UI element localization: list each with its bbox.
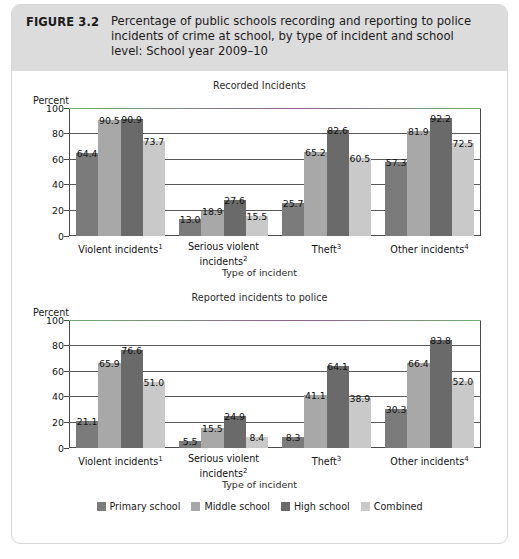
y-tick-mark xyxy=(64,422,69,423)
y-tick-mark xyxy=(64,108,69,109)
x-categories-reported: Violent incidents1Serious violent incide… xyxy=(69,453,481,480)
bar-value-label: 30.3 xyxy=(385,404,408,415)
bar-value-label: 57.3 xyxy=(385,157,408,168)
x-categories-recorded: Violent incidents1Serious violent incide… xyxy=(69,241,481,268)
x-category-label: Other incidents4 xyxy=(378,453,481,480)
bar-value-label: 73.7 xyxy=(143,136,166,147)
bar-fill xyxy=(407,363,429,448)
y-tick-label: 40 xyxy=(52,179,64,190)
bar-value-label: 51.0 xyxy=(143,377,166,388)
legend-swatch xyxy=(97,502,106,511)
bar: 90.5 xyxy=(98,120,120,236)
bar-value-label: 82.6 xyxy=(326,125,349,136)
bar: 27.6 xyxy=(224,200,246,235)
bar: 25.7 xyxy=(282,203,304,236)
legend-swatch xyxy=(281,502,290,511)
bar-fill xyxy=(327,130,349,236)
bar: 64.4 xyxy=(76,153,98,235)
y-tick-label: 20 xyxy=(52,417,64,428)
y-tick-label: 60 xyxy=(52,153,64,164)
bar-value-label: 8.4 xyxy=(248,432,265,443)
x-axis-label-recorded: Type of incident xyxy=(12,267,507,278)
bar-value-label: 21.1 xyxy=(76,416,99,427)
x-category-label: Other incidents4 xyxy=(378,241,481,268)
y-tick-label: 100 xyxy=(46,314,64,325)
bar-value-label: 38.9 xyxy=(349,393,372,404)
bar-value-label: 41.1 xyxy=(304,390,327,401)
bar: 92.2 xyxy=(430,118,452,236)
bar: 76.6 xyxy=(121,350,143,448)
x-category-label: Violent incidents1 xyxy=(69,241,172,268)
bar: 60.5 xyxy=(349,158,371,235)
bar-group: 8.341.164.138.9 xyxy=(275,320,378,448)
bar: 51.0 xyxy=(143,382,165,447)
y-tick-mark xyxy=(64,396,69,397)
bar: 15.5 xyxy=(246,216,268,236)
figure-title: Percentage of public schools recording a… xyxy=(111,14,483,60)
chart-legend: Primary schoolMiddle schoolHigh schoolCo… xyxy=(12,501,507,518)
figure-label: FIGURE 3.2 xyxy=(26,14,99,29)
y-tick-mark xyxy=(64,133,69,134)
bar: 8.3 xyxy=(282,437,304,448)
y-tick-label: 80 xyxy=(52,128,64,139)
bar-value-label: 76.6 xyxy=(120,345,143,356)
legend-item: High school xyxy=(281,501,350,512)
bar-value-label: 13.0 xyxy=(179,214,202,225)
bar-fill xyxy=(98,120,120,236)
bar-value-label: 90.9 xyxy=(120,114,143,125)
bar-fill xyxy=(452,381,474,448)
chart-panel-recorded: Recorded Incidents Percent 64.490.590.97… xyxy=(12,75,507,287)
figure-card: FIGURE 3.2 Percentage of public schools … xyxy=(11,4,508,544)
bar-fill xyxy=(121,350,143,448)
legend-label: Middle school xyxy=(204,501,270,512)
bar-value-label: 60.5 xyxy=(349,153,372,164)
legend-label: High school xyxy=(294,501,350,512)
bar-value-label: 18.9 xyxy=(201,206,224,217)
bar-value-label: 92.2 xyxy=(429,113,452,124)
bar: 5.5 xyxy=(179,441,201,448)
bar-value-label: 72.5 xyxy=(452,138,475,149)
y-tick-label: 60 xyxy=(52,365,64,376)
y-tick-mark xyxy=(64,210,69,211)
bar: 83.8 xyxy=(430,340,452,447)
bar: 66.4 xyxy=(407,363,429,448)
bar-groups-reported: 21.165.976.651.05.515.524.98.48.341.164.… xyxy=(69,320,481,448)
bar-fill xyxy=(407,131,429,236)
bar-value-label: 52.0 xyxy=(452,376,475,387)
x-category-label: Serious violent incidents2 xyxy=(172,453,275,480)
bar-fill xyxy=(430,340,452,447)
legend-item: Middle school xyxy=(191,501,270,512)
bar: 30.3 xyxy=(385,409,407,448)
bar-group: 13.018.927.615.5 xyxy=(172,108,275,236)
bar: 64.1 xyxy=(327,366,349,448)
y-tick-mark xyxy=(64,184,69,185)
y-tick-label: 100 xyxy=(46,102,64,113)
y-tick-label: 80 xyxy=(52,340,64,351)
y-tick-label: 40 xyxy=(52,391,64,402)
figure-header: FIGURE 3.2 Percentage of public schools … xyxy=(12,5,507,71)
legend-label: Primary school xyxy=(110,501,181,512)
bar-fill xyxy=(385,162,407,235)
bar-group: 5.515.524.98.4 xyxy=(172,320,275,448)
legend-swatch xyxy=(191,502,200,511)
bar-value-label: 65.9 xyxy=(98,358,121,369)
y-tick-mark xyxy=(64,371,69,372)
bar-fill xyxy=(304,395,326,448)
bar-fill xyxy=(452,143,474,236)
plot-area-reported: 21.165.976.651.05.515.524.98.48.341.164.… xyxy=(69,320,481,448)
bar-value-label: 5.5 xyxy=(182,436,199,447)
y-tick-label: 20 xyxy=(52,205,64,216)
bar-value-label: 15.5 xyxy=(201,423,224,434)
bar-value-label: 90.5 xyxy=(98,115,121,126)
bar: 13.0 xyxy=(179,219,201,236)
bar-value-label: 83.8 xyxy=(429,335,452,346)
chart-panels: Recorded Incidents Percent 64.490.590.97… xyxy=(12,71,507,518)
bar: 90.9 xyxy=(121,119,143,235)
bar-fill xyxy=(349,158,371,235)
y-tick-mark xyxy=(64,448,69,449)
bar: 57.3 xyxy=(385,162,407,235)
bar-value-label: 81.9 xyxy=(407,126,430,137)
bar: 18.9 xyxy=(201,211,223,235)
bar-fill xyxy=(327,366,349,448)
legend-item: Combined xyxy=(361,501,423,512)
